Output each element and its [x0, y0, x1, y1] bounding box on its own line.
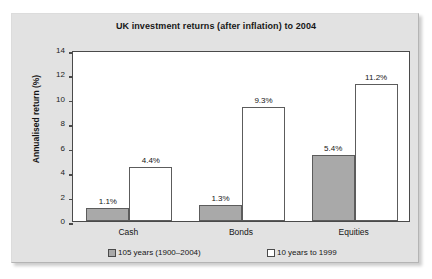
x-axis-category-label: Cash: [118, 227, 138, 237]
plot-inner: 02468101214 1.1%4.4%1.3%9.3%5.4%11.2%: [73, 52, 409, 221]
legend-entry: 10 years to 1999: [267, 248, 337, 257]
bar-value-label: 4.4%: [142, 156, 160, 165]
bar-value-label: 1.3%: [211, 194, 229, 203]
y-axis-tick-mark: [69, 101, 73, 103]
y-axis-tick-label: 8: [61, 119, 65, 128]
bar: 9.3%: [242, 107, 285, 221]
bar: 11.2%: [355, 84, 398, 221]
y-axis-tick-mark: [69, 199, 73, 201]
y-axis-tick-label: 2: [61, 193, 65, 202]
bar: 5.4%: [312, 155, 355, 221]
bar-value-label: 5.4%: [324, 144, 342, 153]
y-axis-tick-label: 0: [61, 217, 65, 226]
chart-legend: 105 years (1900–2004)10 years to 1999: [12, 248, 420, 268]
y-axis-title: Annualised return (%): [31, 49, 41, 189]
y-axis-tick-mark: [69, 223, 73, 225]
x-axis-category-label: Equities: [339, 227, 369, 237]
y-axis-tick-mark: [69, 125, 73, 127]
chart-panel: UK investment returns (after inflation) …: [11, 13, 419, 263]
bar: 1.1%: [86, 208, 129, 221]
bar: 1.3%: [199, 205, 242, 221]
chart-title: UK investment returns (after inflation) …: [12, 21, 420, 31]
bar-value-label: 11.2%: [365, 73, 387, 82]
y-axis-tick-mark: [69, 52, 73, 54]
y-axis-tick-label: 6: [61, 144, 65, 153]
legend-swatch: [108, 249, 116, 257]
bar-value-label: 1.1%: [99, 197, 117, 206]
bar: 4.4%: [129, 167, 172, 221]
y-axis-tick-mark: [69, 150, 73, 152]
legend-label: 105 years (1900–2004): [118, 248, 201, 257]
bar-value-label: 9.3%: [254, 96, 272, 105]
legend-label: 10 years to 1999: [277, 248, 337, 257]
chart-figure: UK investment returns (after inflation) …: [0, 0, 432, 279]
plot-area: 02468101214 1.1%4.4%1.3%9.3%5.4%11.2%: [72, 51, 410, 222]
y-axis-tick-label: 14: [56, 46, 65, 55]
legend-swatch: [267, 249, 275, 257]
legend-entry: 105 years (1900–2004): [108, 248, 201, 257]
y-axis-tick-label: 4: [61, 168, 65, 177]
y-axis-tick-mark: [69, 76, 73, 78]
y-axis-tick-label: 12: [56, 70, 65, 79]
y-axis-tick-mark: [69, 174, 73, 176]
y-axis-tick-label: 10: [56, 95, 65, 104]
x-axis-category-label: Bonds: [229, 227, 253, 237]
